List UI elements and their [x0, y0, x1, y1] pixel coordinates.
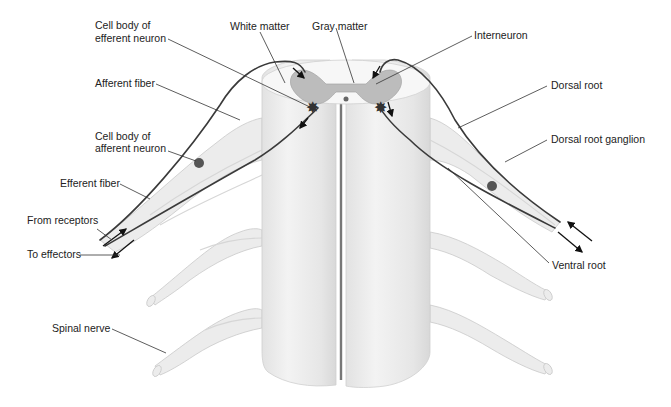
label-to-effectors: To effectors: [27, 248, 81, 260]
label-spinal-nerve: Spinal nerve: [52, 322, 111, 334]
ventral-arrow-out: [558, 232, 582, 252]
upper-nerve-right: [430, 118, 560, 232]
spinal-nerve-lower-left: [145, 229, 262, 378]
afferent-cell-body-right: [487, 181, 497, 191]
label-white-matter: White matter: [230, 20, 290, 32]
spinal-cord: [262, 60, 430, 388]
dorsal-arrow-in: [568, 222, 592, 241]
label-ventral-root: Ventral root: [552, 259, 606, 271]
label-cell-body-efferent-1: Cell body of: [95, 19, 151, 31]
label-gray-matter: Gray matter: [312, 20, 368, 32]
efferent-cell-body-right-star: ✸: [374, 99, 387, 116]
spinal-nerve-lower-right: [430, 232, 554, 376]
label-interneuron: Interneuron: [474, 29, 528, 41]
label-dorsal-root: Dorsal root: [551, 79, 602, 91]
label-from-receptors: From receptors: [27, 214, 98, 226]
label-cell-body-efferent-2: efferent neuron: [95, 32, 166, 44]
spinal-cord-diagram: ✸ ✸ Cell body of efferent neuron White m…: [0, 0, 671, 407]
label-afferent-fiber: Afferent fiber: [95, 77, 155, 89]
label-cell-body-afferent-2: afferent neuron: [95, 142, 166, 154]
efferent-cell-body-left-star: ✸: [306, 99, 319, 116]
label-dorsal-root-ganglion: Dorsal root ganglion: [551, 133, 645, 145]
label-efferent-fiber: Efferent fiber: [60, 177, 120, 189]
afferent-cell-body-left: [194, 158, 204, 168]
label-cell-body-afferent-1: Cell body of: [95, 130, 151, 142]
